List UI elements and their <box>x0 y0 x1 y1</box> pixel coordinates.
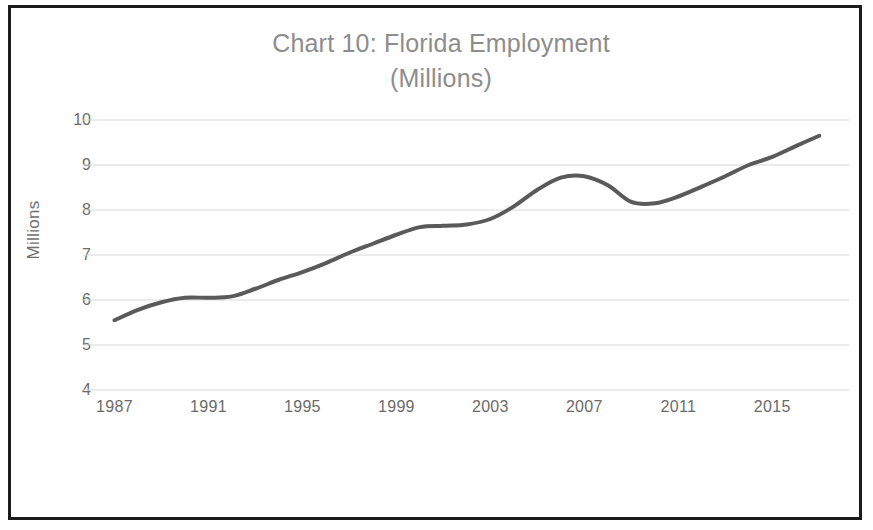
chart-card: Chart 10: Florida Employment (Millions) … <box>11 8 859 517</box>
line-chart-svg <box>11 8 865 523</box>
data-series-line <box>114 136 819 321</box>
chart-image-frame: Chart 10: Florida Employment (Millions) … <box>8 5 862 520</box>
plot-area: Millions 10987654 1987199119951999200320… <box>11 8 865 523</box>
gridlines <box>83 120 849 390</box>
